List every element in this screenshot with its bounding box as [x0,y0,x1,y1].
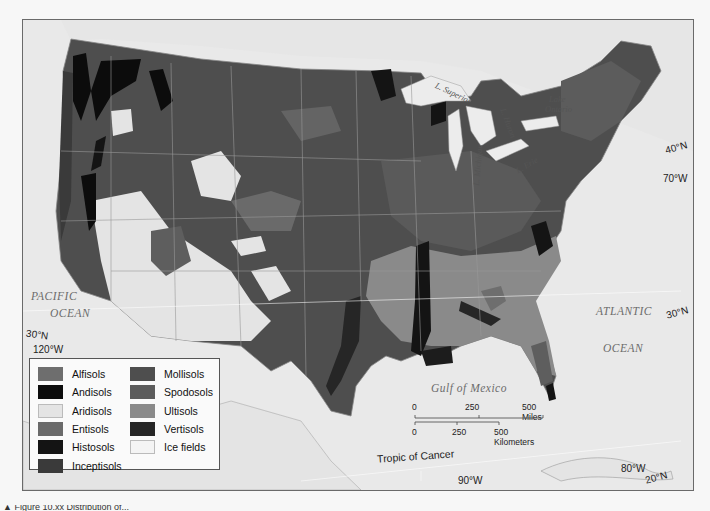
legend-item-vertisols: Vertisols [130,420,213,438]
lon-90w-label: 90°W [458,475,483,486]
scale-bar: 0 250 500 Miles 0 250 500 Kilometers [412,402,542,442]
legend-item-ice-fields: Ice fields [130,438,213,456]
legend: Alfisols Andisols Aridisols Entisols His… [29,358,220,470]
ultisols-swatch [130,404,155,418]
legend-column-1: Alfisols Andisols Aridisols Entisols His… [38,365,122,475]
mollisols-swatch [130,367,155,381]
legend-item-inceptisols: Inceptisols [38,456,122,474]
scale-km-0: 0 [412,427,417,437]
scale-km-500: 500 Kilometers [494,427,542,447]
atlantic-ocean-label-line1: ATLANTIC [596,305,652,317]
lon-120w-label: 120°W [33,344,63,355]
entisols-swatch [38,422,63,436]
atlantic-ocean-label-line2: OCEAN [603,342,643,354]
inceptisols-swatch [38,459,63,473]
legend-item-alfisols: Alfisols [38,365,122,383]
ice-fields-swatch [130,440,155,454]
lon-70w-label: 70°W [663,173,688,184]
legend-item-andisols: Andisols [38,383,122,401]
vertisols-swatch [130,422,155,436]
pacific-ocean-label-line2: OCEAN [50,307,90,319]
histosols-swatch [38,440,63,454]
legend-item-spodosols: Spodosols [130,383,213,401]
gulf-of-mexico-label: Gulf of Mexico [431,382,507,394]
spodosols-swatch [130,385,155,399]
legend-item-ultisols: Ultisols [130,402,213,420]
alfisols-swatch [38,367,63,381]
lake-ontario-label-line2: Ontario [545,104,572,114]
lake-ontario-label-line1: Lake [549,94,566,104]
legend-item-entisols: Entisols [38,420,122,438]
lon-80w-label: 80°W [621,463,646,474]
legend-item-aridisols: Aridisols [38,402,122,420]
figure-caption: ▲ Figure 10.xx Distribution of... [0,505,710,511]
scale-km-250: 250 [452,427,466,437]
legend-column-2: Mollisols Spodosols Ultisols Vertisols I… [130,365,213,456]
pacific-ocean-label-line1: PACIFIC [31,290,77,302]
aridisols-swatch [38,404,63,418]
andisols-swatch [38,385,63,399]
legend-item-mollisols: Mollisols [130,365,213,383]
legend-item-histosols: Histosols [38,438,122,456]
